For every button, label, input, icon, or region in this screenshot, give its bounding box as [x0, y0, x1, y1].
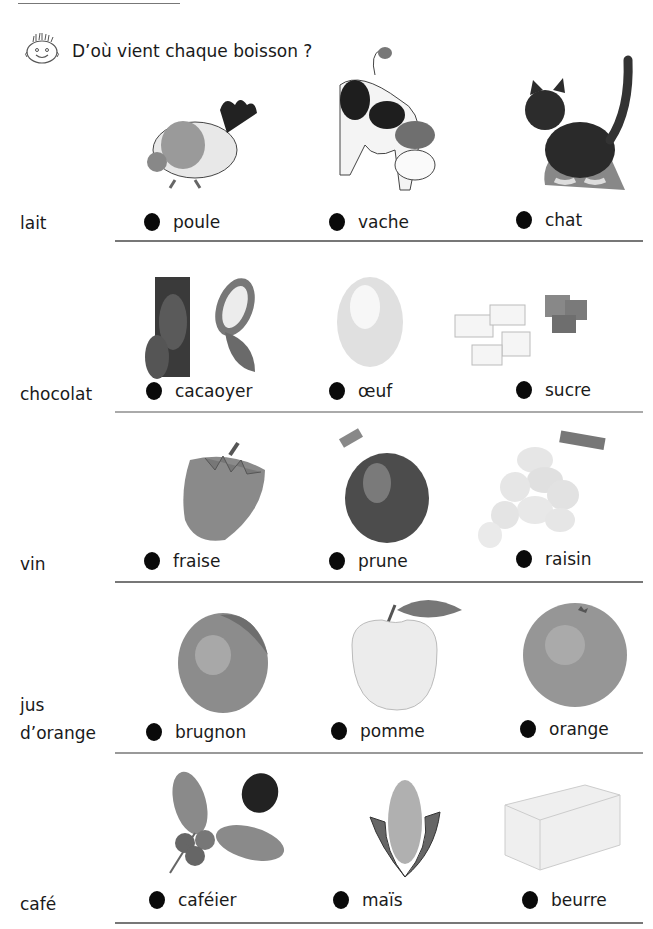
- drink-label-line2: d’orange: [20, 720, 96, 746]
- choice-label: œuf: [358, 381, 392, 401]
- match-dot[interactable]: [333, 891, 349, 909]
- drink-label: vin: [20, 551, 46, 577]
- choice-label: caféier: [178, 890, 236, 910]
- match-dot[interactable]: [520, 720, 536, 738]
- match-dot[interactable]: [149, 891, 165, 909]
- choice-label: beurre: [551, 890, 607, 910]
- top-rule: [18, 3, 180, 4]
- exercise-header: D’où vient chaque boisson ?: [20, 26, 312, 66]
- match-dot[interactable]: [146, 723, 162, 741]
- match-dot[interactable]: [516, 381, 532, 399]
- match-dot[interactable]: [516, 211, 532, 229]
- row-divider: [115, 752, 643, 754]
- grapes-icon: [475, 425, 625, 550]
- choice-prune[interactable]: prune: [329, 551, 408, 571]
- match-dot[interactable]: [144, 213, 160, 231]
- match-dot[interactable]: [522, 891, 538, 909]
- choice-label: fraise: [173, 551, 220, 571]
- choice-fraise[interactable]: fraise: [144, 551, 220, 571]
- choice-label: cacaoyer: [175, 381, 252, 401]
- cacao-tree-icon: [135, 262, 285, 382]
- egg-icon: [330, 262, 410, 372]
- plum-icon: [335, 428, 435, 548]
- choice-mais[interactable]: maïs: [333, 890, 403, 910]
- choice-cafeier[interactable]: caféier: [149, 890, 236, 910]
- drink-label: chocolat: [20, 381, 92, 407]
- match-dot[interactable]: [331, 722, 347, 740]
- drink-label: lait: [20, 210, 47, 236]
- match-dot[interactable]: [144, 552, 160, 570]
- choice-label: chat: [545, 210, 582, 230]
- choice-label: raisin: [545, 549, 591, 569]
- sugar-cubes-icon: [450, 290, 600, 370]
- choice-raisin[interactable]: raisin: [516, 549, 591, 569]
- choice-label: pomme: [360, 721, 425, 741]
- corn-icon: [365, 772, 445, 882]
- butter-icon: [495, 780, 625, 875]
- choice-label: maïs: [362, 890, 403, 910]
- choice-beurre[interactable]: beurre: [522, 890, 607, 910]
- row-divider: [115, 922, 643, 924]
- match-dot[interactable]: [329, 382, 345, 400]
- choice-vache[interactable]: vache: [329, 212, 409, 232]
- choice-chat[interactable]: chat: [516, 210, 582, 230]
- smiley-face-icon: [20, 26, 70, 66]
- match-dot[interactable]: [516, 550, 532, 568]
- row-divider: [115, 240, 643, 242]
- choice-brugnon[interactable]: brugnon: [146, 722, 246, 742]
- cow-icon: [325, 45, 445, 200]
- choice-pomme[interactable]: pomme: [331, 721, 425, 741]
- cat-icon: [505, 55, 640, 195]
- match-dot[interactable]: [146, 382, 162, 400]
- nectarine-icon: [175, 605, 275, 715]
- hen-icon: [135, 90, 265, 190]
- choice-label: poule: [173, 212, 220, 232]
- row-divider: [115, 581, 643, 583]
- match-dot[interactable]: [329, 552, 345, 570]
- choice-label: vache: [358, 212, 409, 232]
- choice-sucre[interactable]: sucre: [516, 380, 591, 400]
- orange-icon: [520, 600, 630, 710]
- choice-label: brugnon: [175, 722, 246, 742]
- drink-label-line1: jus: [20, 692, 44, 718]
- choice-orange[interactable]: orange: [520, 719, 609, 739]
- choice-poule[interactable]: poule: [144, 212, 220, 232]
- coffee-plant-icon: [160, 768, 290, 878]
- choice-cacaoyer[interactable]: cacaoyer: [146, 381, 252, 401]
- drink-label: café: [20, 891, 56, 917]
- apple-icon: [342, 595, 467, 715]
- choice-label: sucre: [545, 380, 591, 400]
- row-divider: [115, 411, 643, 413]
- choice-label: prune: [358, 551, 408, 571]
- exercise-title: D’où vient chaque boisson ?: [72, 41, 312, 61]
- choice-oeuf[interactable]: œuf: [329, 381, 392, 401]
- choice-label: orange: [549, 719, 609, 739]
- strawberry-icon: [175, 440, 275, 545]
- match-dot[interactable]: [329, 213, 345, 231]
